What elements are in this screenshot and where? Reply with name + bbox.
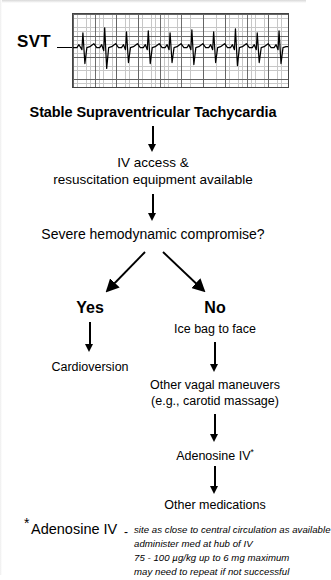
step-adenosine-iv: Adenosine IV* [135,447,295,464]
branch-label-no: No [165,299,265,318]
scan-edge-top [0,0,306,3]
arrow-ice-to-vagal [203,342,227,372]
footnote-marker: * [24,516,29,530]
arrow-yes-to-cardioversion [78,322,102,352]
arrow-iv-to-decision [141,194,165,221]
flow-title: Stable Supraventricular Tachycardia [0,104,306,121]
step-adenosine-iv-text: Adenosine IV [176,449,250,463]
ecg-waveform [73,14,288,88]
footnote-line-2: administer med at hub of IV [134,537,253,552]
arrow-vagal-to-adenosine [203,414,227,442]
footnote-line-4: may need to repeat if not successful [134,565,289,580]
footnote-line-3: 75 - 100 µg/kg up to 6 mg maximum [134,551,289,566]
branch-label-yes: Yes [40,299,140,318]
arrow-to-no-branch [163,252,203,290]
arrow-title-to-iv [141,126,165,152]
step-other-medications: Other medications [135,498,295,513]
svt-label: SVT [17,32,51,52]
action-cardioversion: Cardioversion [30,360,150,375]
step-vagal-maneuvers-line2: (e.g., carotid massage) [135,394,295,409]
ecg-strip [72,13,289,88]
step-ice-bag-to-face: Ice bag to face [155,322,275,337]
arrow-adenosine-to-other-meds [203,466,227,494]
footnote-line-1: site as close to central circulation as … [134,523,331,538]
footnote-heading: Adenosine IV [31,521,117,537]
adenosine-footnote-marker: * [251,447,254,457]
arrow-to-yes-branch [108,252,145,290]
decision-hemodynamic-compromise: Severe hemodynamic compromise? [0,226,306,243]
step-iv-access-line2: resuscitation equipment available [0,172,306,188]
step-vagal-maneuvers-line1: Other vagal maneuvers [135,378,295,393]
footnote-dash: - [124,525,128,539]
step-iv-access-line1: IV access & [0,155,306,171]
